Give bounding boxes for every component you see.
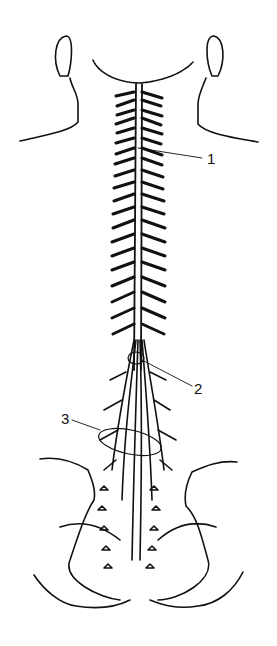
nerve-loop-marker (96, 424, 164, 461)
label-1: 1 (207, 150, 215, 167)
skull-base (93, 60, 193, 83)
spinal-cord-diagram (0, 0, 277, 646)
right-shoulder (198, 78, 258, 142)
cauda-equina (100, 340, 176, 560)
leader-line-1 (138, 148, 202, 158)
label-2: 2 (194, 380, 202, 397)
pelvis (34, 458, 243, 607)
spinal-cord (134, 84, 142, 370)
label-3: 3 (61, 410, 69, 427)
leader-line-3 (72, 420, 100, 430)
left-ear (55, 36, 71, 76)
left-shoulder (20, 78, 78, 141)
spinal-nerves-upper (112, 92, 165, 334)
right-ear (207, 36, 223, 76)
sacral-foramina (98, 486, 160, 568)
